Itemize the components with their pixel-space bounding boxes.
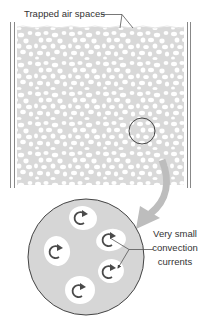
convection-label-line-1: Very small	[152, 229, 198, 239]
insulation-diagram	[0, 0, 204, 324]
convection-label-line-2: convection	[152, 243, 198, 253]
convection-label-line-3: currents	[152, 257, 198, 267]
magnified-view	[28, 199, 144, 315]
trapped-air-label: Trapped air spaces	[24, 9, 105, 19]
